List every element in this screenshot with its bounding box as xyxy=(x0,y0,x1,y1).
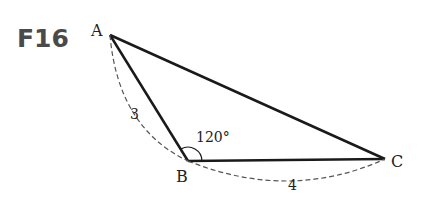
vertex-label-a: A xyxy=(90,21,103,40)
vertex-label-c: C xyxy=(391,152,403,171)
side-bc xyxy=(188,159,385,161)
angle-label-b: 120° xyxy=(196,129,230,145)
side-length-ab: 3 xyxy=(130,106,139,122)
vertex-label-b: B xyxy=(176,167,188,186)
triangle-diagram: F16 A B C 3 4 120° xyxy=(0,0,438,199)
dimension-arc-bc xyxy=(188,159,385,181)
problem-number: F16 xyxy=(17,24,69,53)
side-ac xyxy=(110,35,385,159)
side-length-bc: 4 xyxy=(288,177,297,193)
